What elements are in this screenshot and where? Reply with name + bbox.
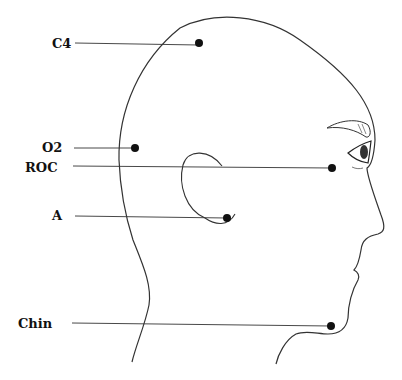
leader-line-chin — [72, 323, 331, 326]
electrode-dot-a — [223, 214, 231, 222]
electrode-dot-roc — [328, 164, 336, 172]
head-profile-drawing — [0, 0, 402, 380]
label-o2: O2 — [42, 141, 62, 154]
label-a: A — [52, 209, 62, 222]
eye-lower-lid — [352, 167, 363, 169]
label-c4: C4 — [52, 37, 71, 50]
label-chin: Chin — [18, 317, 52, 330]
eye-iris — [360, 145, 368, 159]
electrode-dots — [131, 39, 336, 330]
leader-line-a — [75, 216, 227, 218]
leader-line-roc — [73, 166, 332, 168]
label-roc: ROC — [25, 161, 57, 174]
electrode-dot-o2 — [131, 144, 139, 152]
leader-line-c4 — [75, 43, 199, 45]
head-outline — [119, 17, 384, 364]
electrode-dot-chin — [327, 322, 335, 330]
ear-outline — [182, 153, 235, 223]
leader-lines — [72, 43, 332, 326]
electrode-dot-c4 — [195, 39, 203, 47]
